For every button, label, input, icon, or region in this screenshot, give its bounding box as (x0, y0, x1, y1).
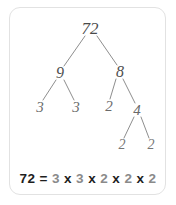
tree-edge-n8-n4 (123, 79, 135, 103)
equation-times-sign-2: x (88, 171, 96, 186)
tree-edge-root-n9 (64, 36, 85, 66)
tree-node-n2c: 2 (148, 138, 155, 152)
equation-factor-4: 2 (124, 171, 132, 186)
equation-factor-3: 2 (100, 171, 108, 186)
tree-node-n3a: 3 (36, 100, 44, 115)
equation-factor-5: 2 (149, 171, 157, 186)
equation-lhs: 72 (20, 171, 36, 186)
tree-node-n3b: 3 (72, 100, 80, 115)
tree-edge-root-n8 (97, 36, 117, 65)
tree-node-n4: 4 (133, 103, 141, 118)
equation-times-sign-4: x (136, 171, 144, 186)
tree-node-root: 72 (82, 20, 99, 37)
equation-factor-2: 3 (76, 171, 84, 186)
factor-tree-card-page: 7298332422 72 = 3 x 3 x 2 x 2 x 2 (0, 0, 176, 205)
tree-node-n8: 8 (116, 64, 124, 80)
tree-edge-n9-n3a (43, 80, 56, 100)
tree-node-n9: 9 (56, 65, 64, 81)
equation-factor-1: 3 (52, 171, 60, 186)
tree-edge-n9-n3b (64, 80, 74, 100)
equation-times-sign-1: x (64, 171, 72, 186)
equation-equals-sign: = (39, 171, 47, 186)
factorization-equation: 72 = 3 x 3 x 2 x 2 x 2 (0, 171, 176, 186)
equation-times-sign-3: x (112, 171, 120, 186)
tree-node-n2b: 2 (119, 138, 126, 152)
tree-edge-n4-n2b (124, 117, 134, 138)
tree-edge-n8-n2a (110, 79, 116, 99)
tree-edge-n4-n2c (141, 117, 149, 138)
tree-node-n2a: 2 (105, 99, 113, 114)
